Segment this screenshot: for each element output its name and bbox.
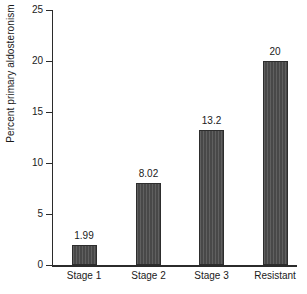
y-axis-title: Percent primary aldosteronism [5, 0, 16, 169]
y-axis-tick-label: 10 [3, 158, 43, 168]
x-axis-category-label: Resistant [240, 270, 307, 282]
x-axis-category-label: Stage 3 [177, 270, 247, 282]
x-axis-line [52, 265, 297, 267]
x-axis-category-label: Stage 1 [49, 270, 119, 282]
y-axis-tick-label: 0 [3, 260, 43, 270]
bar [72, 245, 97, 265]
y-axis-line [52, 10, 53, 266]
y-axis-tick-label: 25 [3, 5, 43, 15]
bar [136, 183, 161, 265]
y-axis-tick-label: 15 [3, 107, 43, 117]
y-axis-tick-label: 5 [3, 209, 43, 219]
x-axis-category-label: Stage 2 [114, 270, 184, 282]
bar-value-label: 1.99 [59, 231, 109, 241]
bar [199, 130, 224, 265]
bar-value-label: 13.2 [187, 116, 237, 126]
y-axis-tick [46, 214, 52, 215]
y-axis-tick [46, 10, 52, 11]
y-axis-tick-label: 20 [3, 56, 43, 66]
y-axis-tick [46, 112, 52, 113]
y-axis-tick [46, 163, 52, 164]
bar-value-label: 20 [250, 47, 300, 57]
y-axis-tick [46, 61, 52, 62]
bar [263, 61, 288, 265]
bar-value-label: 8.02 [124, 169, 174, 179]
bar-chart: Percent primary aldosteronism 0510152025… [0, 0, 307, 294]
y-axis-tick [46, 265, 52, 266]
